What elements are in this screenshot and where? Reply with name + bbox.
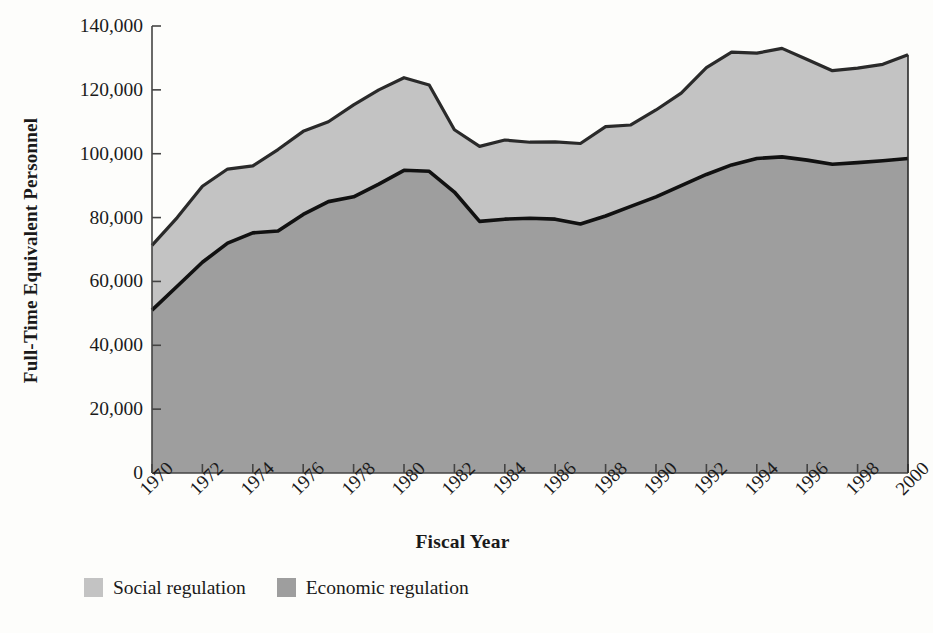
chart-legend: Social regulationEconomic regulation	[84, 578, 469, 598]
legend-swatch	[84, 578, 103, 597]
x-axis-title: Fiscal Year	[0, 531, 925, 553]
legend-item: Social regulation	[84, 578, 246, 598]
legend-item: Economic regulation	[277, 578, 469, 598]
legend-label: Social regulation	[113, 578, 246, 598]
legend-label: Economic regulation	[306, 578, 469, 598]
legend-swatch	[277, 578, 296, 597]
